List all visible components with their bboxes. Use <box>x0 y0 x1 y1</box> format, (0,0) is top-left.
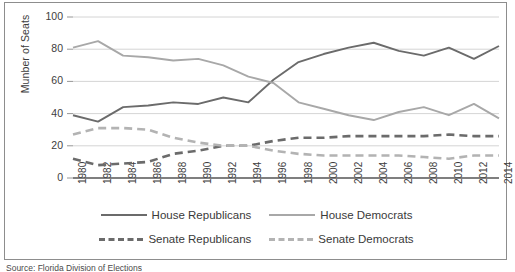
chart-figure: Munber of Seats 020406080100 19801982198… <box>0 0 515 272</box>
legend-item-house-republicans[interactable]: House Republicans <box>101 209 252 221</box>
legend-label: Senate Republicans <box>148 233 251 245</box>
legend-swatch-dashed-line-icon <box>269 238 313 241</box>
chart-frame: Munber of Seats 020406080100 19801982198… <box>4 2 507 260</box>
legend-item-house-democrats[interactable]: House Democrats <box>269 209 412 221</box>
legend-swatch-line-icon <box>269 214 315 216</box>
legend-row-house: House Republicans House Democrats <box>5 203 508 227</box>
legend-item-senate-republicans[interactable]: Senate Republicans <box>99 233 251 245</box>
legend-swatch-line-icon <box>101 214 147 216</box>
series-line-2 <box>73 135 499 166</box>
legend-item-senate-democrats[interactable]: Senate Democrats <box>269 233 413 245</box>
legend-label: House Democrats <box>320 209 412 221</box>
source-caption: Source: Florida Division of Elections <box>6 263 142 272</box>
legend-label: House Republicans <box>152 209 252 221</box>
legend-row-senate: Senate Republicans Senate Democrats <box>5 227 508 251</box>
series-line-3 <box>73 128 499 159</box>
chart-legend: House Republicans House Democrats Senate… <box>5 203 508 251</box>
legend-swatch-dashed-line-icon <box>99 238 143 241</box>
legend-label: Senate Democrats <box>318 233 413 245</box>
